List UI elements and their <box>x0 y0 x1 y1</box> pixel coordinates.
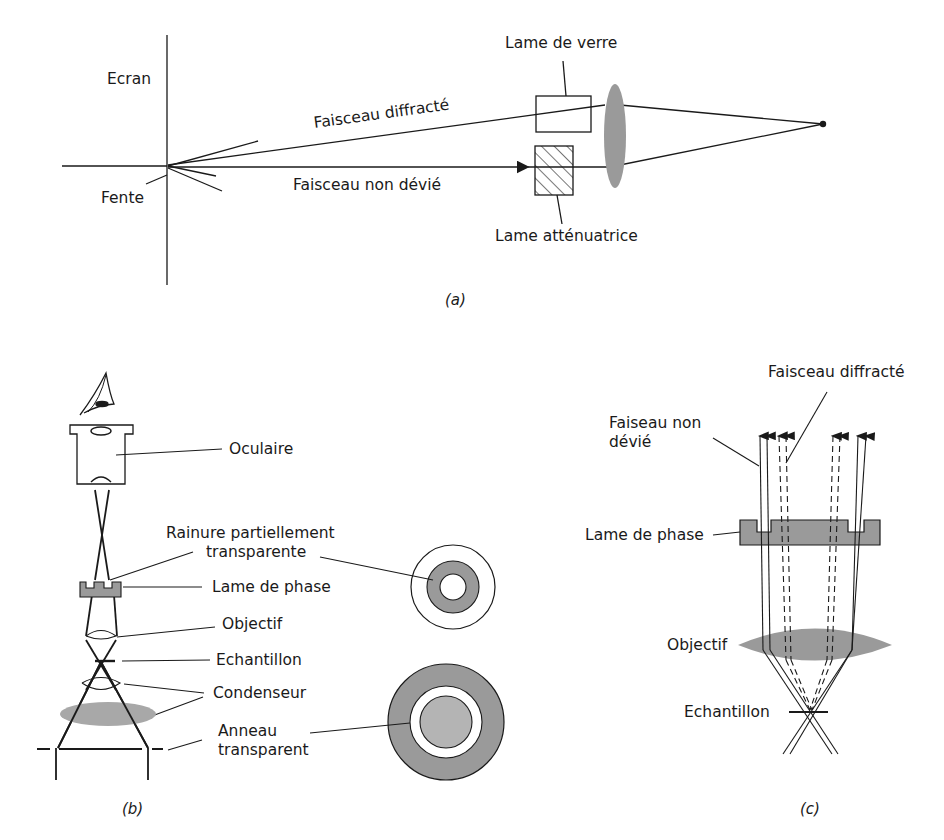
label-eyepiece: Oculaire <box>229 440 293 458</box>
caption-a: (a) <box>445 291 466 309</box>
label-objective-c: Objectif <box>667 636 727 654</box>
label-sample-b: Echantillon <box>216 651 302 669</box>
annulus-diagram <box>310 664 504 780</box>
label-undeviated-beam-a: Faisceau non dévié <box>293 176 441 194</box>
label-groove-line2: transparente <box>206 543 306 561</box>
label-sample-c: Echantillon <box>684 703 770 721</box>
eye-icon <box>80 373 114 415</box>
label-glass-plate: Lame de verre <box>505 34 617 52</box>
label-ring-line1: Anneau <box>218 722 277 740</box>
caption-b: (b) <box>122 800 143 818</box>
label-diffracted-beam-c: Faisceau diffracté <box>768 363 905 381</box>
caption-c: (c) <box>800 800 820 818</box>
glass-plate <box>536 96 591 132</box>
objective-lens-c <box>738 629 892 661</box>
panel-c-rays <box>713 392 866 754</box>
focal-point <box>820 121 826 127</box>
label-groove-line1: Rainure partiellement <box>166 524 335 542</box>
phase-ring-diagram <box>320 545 495 629</box>
converging-lens-a <box>604 84 626 188</box>
label-objective-b: Objectif <box>222 615 282 633</box>
figure-drawing <box>0 0 944 840</box>
label-phase-plate-c: Lame de phase <box>585 526 704 544</box>
label-screen: Ecran <box>107 70 151 88</box>
label-phase-plate-b: Lame de phase <box>212 578 331 596</box>
label-condenser: Condenseur <box>213 684 306 702</box>
label-undeviated-line1-c: Faiseau non <box>609 414 701 432</box>
label-slit: Fente <box>101 189 144 207</box>
panel-a-drawing <box>62 35 823 285</box>
phase-plate-b <box>80 582 121 597</box>
label-ring-line2: transparent <box>218 741 309 759</box>
attenuating-plate <box>535 146 573 195</box>
label-undeviated-line2-c: dévié <box>609 433 651 451</box>
label-attenuating-plate: Lame atténuatrice <box>495 227 638 245</box>
